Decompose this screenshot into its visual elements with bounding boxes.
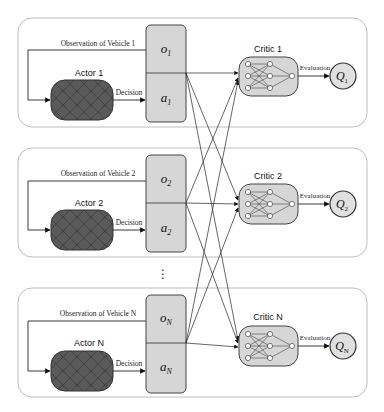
actor-network-icon: [51, 351, 113, 391]
actor-label: Actor N: [74, 338, 104, 348]
evaluation-label: Evaluation: [300, 192, 331, 200]
critic-network-icon: [239, 326, 298, 366]
decision-label: Decision: [116, 218, 143, 227]
diagram-canvas: Observation of Vehicle 1 Actor 1 Decisio…: [0, 0, 384, 412]
observation-label: Observation of Vehicle 2: [61, 169, 136, 178]
cross-connections: [186, 73, 238, 347]
actor-network-icon: [51, 210, 113, 250]
actor-network-icon: [51, 80, 113, 120]
actor-label: Actor 1: [75, 68, 104, 78]
decision-label: Decision: [116, 88, 143, 97]
decision-label: Decision: [116, 359, 143, 368]
critic-network-icon: [239, 57, 298, 96]
critic-network-icon: [239, 184, 298, 224]
agent-panel-2: Observation of Vehicle 2 Actor 2 Decisio…: [18, 148, 367, 257]
observation-label: Observation of Vehicle N: [60, 309, 137, 318]
critic-label: Critic 1: [254, 44, 282, 54]
evaluation-label: Evaluation: [300, 64, 331, 72]
critic-label: Critic 2: [254, 171, 282, 181]
agent-panel-n: Observation of Vehicle N Actor N Decisio…: [18, 288, 367, 397]
ellipsis: ⋮: [157, 267, 169, 281]
obs-action-box: [146, 155, 186, 252]
agent-panel-1: Observation of Vehicle 1 Actor 1 Decisio…: [18, 18, 367, 127]
critic-label: Critic N: [253, 312, 283, 322]
actor-label: Actor 2: [75, 198, 104, 208]
obs-action-box: [146, 25, 186, 122]
observation-label: Observation of Vehicle 1: [61, 39, 136, 48]
evaluation-label: Evaluation: [300, 334, 331, 342]
